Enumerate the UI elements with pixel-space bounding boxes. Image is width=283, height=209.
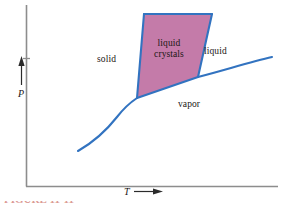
phase-diagram-figure: solid liquidcrystals liquid vapor P T FI… — [0, 0, 283, 209]
region-label-liquid: liquid — [204, 46, 227, 57]
region-label-liquid-crystals: liquidcrystals — [146, 38, 192, 59]
figure-caption-strip: FIGURE 11-11 — [0, 201, 283, 209]
sublimation-curve — [78, 98, 137, 151]
figure-caption: FIGURE 11-11 — [4, 201, 74, 205]
region-label-liquid-crystals-line2: crystals — [154, 49, 184, 59]
region-label-liquid-crystals-line1: liquid — [158, 38, 181, 48]
region-label-vapor: vapor — [178, 99, 200, 110]
t-axis-arrow-icon — [134, 188, 163, 194]
x-axis-label: T — [124, 186, 130, 197]
p-axis-arrow-icon — [18, 56, 24, 85]
y-axis-label: P — [18, 88, 24, 99]
phase-diagram-canvas — [0, 0, 283, 209]
region-label-solid: solid — [97, 54, 116, 65]
